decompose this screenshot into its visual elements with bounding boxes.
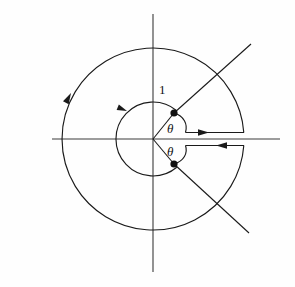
arrowheads-group	[63, 91, 227, 148]
branch-point-upper	[170, 109, 177, 116]
figure-canvas: 1 θ θ	[0, 0, 295, 287]
axes-group	[52, 14, 280, 272]
branch-point-lower	[170, 160, 177, 167]
slit-lower-arrow-icon	[216, 142, 227, 148]
angle-theta-lower-label: θ	[167, 144, 173, 160]
contour-diagram	[0, 0, 295, 287]
branch-ray-lower	[174, 164, 249, 233]
radius-one-label: 1	[159, 82, 166, 98]
angle-theta-upper-label: θ	[167, 121, 173, 137]
slit-upper-arrow-icon	[198, 129, 209, 135]
inner-circle-arrow-icon	[117, 104, 129, 113]
